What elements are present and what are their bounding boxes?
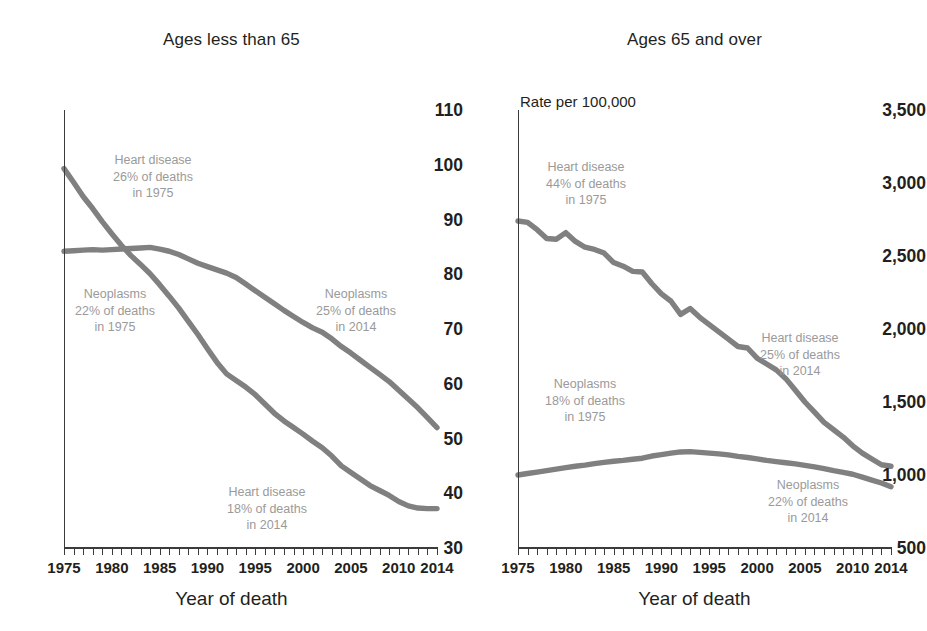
- series-line-neoplasms: [64, 247, 437, 427]
- x-axis-tick: [255, 548, 256, 555]
- y-tick-label: 1,500: [877, 392, 926, 413]
- x-axis-tick: [547, 548, 548, 555]
- x-axis-tick: [227, 548, 228, 555]
- x-axis-tick: [169, 548, 170, 555]
- x-axis-tick: [150, 548, 151, 555]
- annotation-line: Heart disease: [740, 330, 860, 347]
- x-axis-tick: [585, 548, 586, 555]
- x-axis-tick: [652, 548, 653, 555]
- annotation-line: Heart disease: [526, 159, 646, 176]
- annotation-heart-1975-under-65: Heart disease 26% of deaths in 1975: [93, 152, 213, 202]
- x-axis-tick: [437, 548, 438, 555]
- x-axis-title-under-65: Year of death: [0, 588, 463, 610]
- annotation-neoplasms-1975-over-65: Neoplasms 18% of deaths in 1975: [525, 376, 645, 426]
- y-tick-label: 3,000: [877, 173, 926, 194]
- chart-panel-under-65: Ages less than 65 11010090807060504030 1…: [0, 0, 463, 631]
- x-axis-tick: [217, 548, 218, 555]
- x-axis-tick: [661, 548, 662, 555]
- x-axis-tick: [853, 548, 854, 555]
- x-tick-label: 1985: [597, 559, 630, 576]
- x-axis-tick: [83, 548, 84, 555]
- x-axis-tick: [418, 548, 419, 555]
- x-axis-tick: [141, 548, 142, 555]
- x-axis-tick: [380, 548, 381, 555]
- x-axis-tick: [738, 548, 739, 555]
- x-axis-tick: [207, 548, 208, 555]
- annotation-line: 18% of deaths: [525, 393, 645, 410]
- annotation-heart-1975-over-65: Heart disease 44% of deaths in 1975: [526, 159, 646, 209]
- annotation-line: in 2014: [207, 517, 327, 534]
- y-tick-label: 500: [877, 538, 926, 559]
- x-axis-tick: [614, 548, 615, 555]
- x-axis-tick: [595, 548, 596, 555]
- y-tick-label: 50: [405, 428, 463, 449]
- annotation-line: in 1975: [525, 409, 645, 426]
- x-axis-tick: [709, 548, 710, 555]
- x-axis-tick: [351, 548, 352, 555]
- x-axis-tick: [776, 548, 777, 555]
- x-axis-tick: [160, 548, 161, 555]
- x-axis-tick: [575, 548, 576, 555]
- y-tick-label: 90: [405, 209, 463, 230]
- x-axis-tick: [341, 548, 342, 555]
- x-axis-tick: [623, 548, 624, 555]
- x-axis-tick: [188, 548, 189, 555]
- x-axis-tick: [805, 548, 806, 555]
- annotation-line: Neoplasms: [296, 286, 416, 303]
- x-axis-tick: [642, 548, 643, 555]
- x-tick-label: 1985: [143, 559, 176, 576]
- annotation-line: 25% of deaths: [296, 303, 416, 320]
- x-tick-label: 2000: [740, 559, 773, 576]
- annotation-line: in 1975: [55, 319, 175, 336]
- annotation-line: 18% of deaths: [207, 501, 327, 518]
- x-axis-tick: [700, 548, 701, 555]
- y-tick-label: 110: [405, 100, 463, 121]
- y-tick-label: 2,000: [877, 319, 926, 340]
- x-axis-tick: [360, 548, 361, 555]
- x-tick-label: 1980: [549, 559, 582, 576]
- x-axis-tick: [728, 548, 729, 555]
- y-tick-label: 100: [405, 154, 463, 175]
- annotation-line: Neoplasms: [525, 376, 645, 393]
- x-axis-tick: [112, 548, 113, 555]
- y-axis-line-over-65: [518, 110, 519, 548]
- x-axis-tick: [537, 548, 538, 555]
- x-axis-tick: [556, 548, 557, 555]
- x-axis-tick: [408, 548, 409, 555]
- annotation-line: 22% of deaths: [55, 303, 175, 320]
- x-axis-tick: [834, 548, 835, 555]
- x-axis-tick: [332, 548, 333, 555]
- x-axis-tick: [198, 548, 199, 555]
- x-axis-tick: [843, 548, 844, 555]
- x-axis-tick: [427, 548, 428, 555]
- annotation-neoplasms-1975-under-65: Neoplasms 22% of deaths in 1975: [55, 286, 175, 336]
- x-tick-label: 2005: [788, 559, 821, 576]
- x-axis-tick: [102, 548, 103, 555]
- x-axis-tick: [389, 548, 390, 555]
- y-tick-label: 1,000: [877, 465, 926, 486]
- x-axis-tick: [265, 548, 266, 555]
- x-axis-line-under-65: [64, 547, 438, 549]
- x-axis-tick: [757, 548, 758, 555]
- x-axis-title-over-65: Year of death: [463, 588, 926, 610]
- y-tick-label: 40: [405, 483, 463, 504]
- panel-title-under-65: Ages less than 65: [0, 30, 463, 50]
- y-tick-label: 2,500: [877, 246, 926, 267]
- x-axis-tick: [93, 548, 94, 555]
- x-axis-tick: [872, 548, 873, 555]
- annotation-line: Heart disease: [207, 484, 327, 501]
- annotation-line: Neoplasms: [55, 286, 175, 303]
- x-axis-tick: [322, 548, 323, 555]
- x-axis-tick: [881, 548, 882, 555]
- x-tick-label: 2000: [286, 559, 319, 576]
- units-label-over-65: Rate per 100,000: [520, 93, 636, 110]
- x-axis-tick: [236, 548, 237, 555]
- annotation-line: 22% of deaths: [748, 494, 868, 511]
- panel-title-over-65: Ages 65 and over: [463, 30, 926, 50]
- annotation-neoplasms-2014-under-65: Neoplasms 25% of deaths in 2014: [296, 286, 416, 336]
- x-axis-tick: [671, 548, 672, 555]
- x-axis-tick: [64, 548, 65, 555]
- annotation-heart-2014-under-65: Heart disease 18% of deaths in 2014: [207, 484, 327, 534]
- x-axis-tick: [303, 548, 304, 555]
- annotation-line: in 2014: [740, 363, 860, 380]
